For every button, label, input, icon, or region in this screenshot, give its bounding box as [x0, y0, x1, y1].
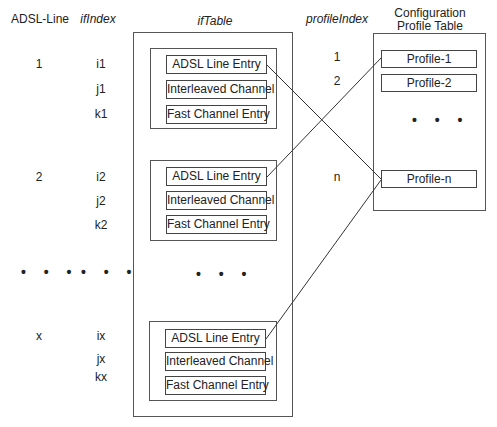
header-adsl-line: ADSL-Line	[10, 12, 70, 26]
if-index-k2: k2	[86, 218, 116, 232]
header-if-table: ifTable	[190, 14, 240, 28]
header-config-table-line2: Profile Table	[380, 19, 480, 33]
ellipsis-if-table: • • •	[196, 266, 253, 282]
profile-1: Profile-1	[381, 50, 477, 68]
header-profile-index: profileIndex	[301, 12, 373, 26]
ellipsis-adsl-line: • • •	[21, 264, 78, 280]
fast-channel-entry-x: Fast Channel Entry	[165, 376, 266, 395]
fast-channel-entry-1: Fast Channel Entry	[166, 105, 267, 124]
if-index-jx: jx	[86, 352, 116, 366]
adsl-line-entry-1: ADSL Line Entry	[166, 55, 267, 74]
profile-index-n: n	[322, 170, 352, 184]
adsl-line-entry-x: ADSL Line Entry	[165, 329, 266, 348]
adsl-line-2: 2	[24, 170, 54, 184]
ellipsis-if-index: • • •	[81, 264, 138, 280]
profile-index-1: 1	[322, 50, 352, 64]
interleaved-channel-2: Interleaved Channel	[166, 191, 267, 210]
profile-index-2: 2	[322, 74, 352, 88]
if-index-i2: i2	[86, 170, 116, 184]
interleaved-channel-x: Interleaved Channel	[165, 352, 266, 371]
if-index-ix: ix	[86, 329, 116, 343]
profile-n: Profile-n	[381, 170, 477, 188]
header-if-index: ifIndex	[78, 12, 118, 26]
if-index-j2: j2	[86, 194, 116, 208]
fast-channel-entry-2: Fast Channel Entry	[166, 215, 267, 234]
profile-2: Profile-2	[381, 74, 477, 92]
adsl-line-x: x	[24, 329, 54, 343]
interleaved-channel-1: Interleaved Channel	[166, 80, 267, 99]
if-index-kx: kx	[86, 370, 116, 384]
if-index-j1: j1	[86, 82, 116, 96]
adsl-line-1: 1	[24, 57, 54, 71]
if-index-i1: i1	[86, 57, 116, 71]
ellipsis-profiles: • • •	[412, 112, 469, 128]
header-config-table-line1: Configuration	[380, 6, 480, 20]
adsl-line-entry-2: ADSL Line Entry	[166, 167, 267, 186]
if-index-k1: k1	[86, 107, 116, 121]
